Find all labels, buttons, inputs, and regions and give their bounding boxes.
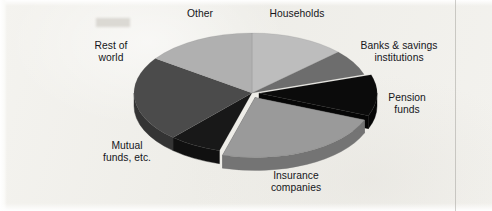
pie-label-pension: Pensionfunds <box>377 92 437 115</box>
pie-label-restworld-line-1: Rest of <box>80 40 142 52</box>
pie-label-households-line-1: Households <box>258 8 336 20</box>
pie-label-banks: Banks & savingsinstitutions <box>352 40 446 63</box>
pie-label-mutual-line-2: funds, etc. <box>90 152 164 164</box>
pie-label-mutual: Mutualfunds, etc. <box>90 140 164 163</box>
chart-figure: OtherHouseholdsBanks & savingsinstitutio… <box>0 0 492 211</box>
pie-label-restworld: Rest ofworld <box>80 40 142 63</box>
pie-label-pension-line-1: Pension <box>377 92 437 104</box>
pie-label-households: Households <box>258 8 336 20</box>
pie-label-insurance-line-1: Insurance <box>258 170 334 182</box>
pie-label-other-line-1: Other <box>169 8 231 20</box>
pie-label-restworld-line-2: world <box>80 52 142 64</box>
pie-label-pension-line-2: funds <box>377 104 437 116</box>
pie-label-other: Other <box>169 8 231 20</box>
pie-label-banks-line-1: Banks & savings <box>352 40 446 52</box>
pie-label-mutual-line-1: Mutual <box>90 140 164 152</box>
pie-label-banks-line-2: institutions <box>352 52 446 64</box>
pie-label-insurance-line-2: companies <box>258 182 334 194</box>
pie-label-insurance: Insurancecompanies <box>258 170 334 193</box>
